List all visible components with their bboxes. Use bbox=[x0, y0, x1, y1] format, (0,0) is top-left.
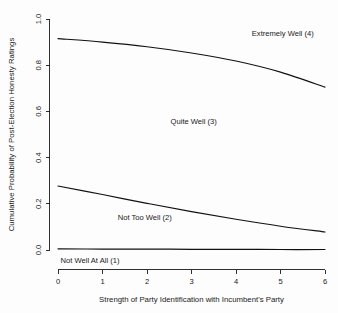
y-tick-label-0.4: 0.4 bbox=[34, 152, 43, 163]
y-tick-label-0.8: 0.8 bbox=[34, 60, 43, 71]
x-tick-label-4: 4 bbox=[234, 277, 238, 286]
x-tick-label-2: 2 bbox=[145, 277, 149, 286]
y-tick-label-0.0: 0.0 bbox=[34, 245, 43, 256]
x-tick-label-3: 3 bbox=[189, 277, 193, 286]
x-tick-label-5: 5 bbox=[278, 277, 282, 286]
curve-extremely-well bbox=[58, 39, 325, 88]
x-axis-title: Strength of Party Identification with In… bbox=[99, 295, 284, 304]
chart-svg: 0.0 0.2 0.4 0.6 0.8 1.0 Cumulative Proba… bbox=[0, 0, 338, 313]
y-tick-label-1.0: 1.0 bbox=[34, 14, 43, 25]
x-tick-label-6: 6 bbox=[323, 277, 327, 286]
y-tick-label-0.6: 0.6 bbox=[34, 106, 43, 117]
label-not-too-well: Not Too Well (2) bbox=[118, 213, 173, 222]
y-tick-label-0.2: 0.2 bbox=[34, 199, 43, 210]
x-tick-label-0: 0 bbox=[56, 277, 60, 286]
chart-canvas: 0.0 0.2 0.4 0.6 0.8 1.0 Cumulative Proba… bbox=[0, 0, 338, 313]
curve-not-too-well bbox=[58, 186, 325, 232]
curve-not-well-at-all bbox=[58, 249, 325, 250]
label-extremely-well: Extremely Well (4) bbox=[252, 29, 314, 38]
label-quite-well: Quite Well (3) bbox=[171, 117, 218, 126]
x-tick-label-1: 1 bbox=[100, 277, 104, 286]
label-not-well-at-all: Not Well At All (1) bbox=[61, 256, 120, 265]
y-axis-title: Cumulative Probability of Post-Election … bbox=[7, 38, 16, 232]
curves-group bbox=[58, 39, 325, 250]
